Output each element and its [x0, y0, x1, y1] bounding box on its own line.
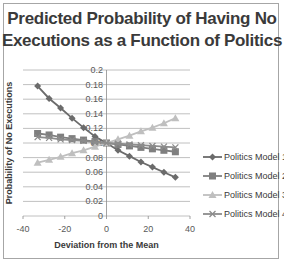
- data-point-diamond-marker: [149, 164, 156, 171]
- x-tick-label: 20: [143, 224, 153, 234]
- legend-label-model-4: Politics Model 4: [224, 209, 284, 219]
- y-tick-label: 0.2: [90, 65, 103, 75]
- y-tick-label: 0.18: [85, 80, 103, 90]
- data-point-square-marker: [160, 147, 167, 154]
- x-tick-label: -40: [16, 224, 29, 234]
- data-point-diamond-marker: [172, 174, 179, 181]
- y-tick-label: 0: [98, 211, 103, 221]
- x-tick-label: 40: [185, 224, 195, 234]
- data-point-square-marker: [34, 130, 41, 137]
- x-tick-label: -20: [58, 224, 71, 234]
- data-point-triangle-marker: [171, 114, 179, 121]
- y-tick-label: 0.16: [85, 94, 103, 104]
- legend-diamond-icon: [209, 154, 216, 161]
- y-tick-label: 0.02: [85, 196, 103, 206]
- legend-label-model-2: Politics Model 2: [224, 171, 284, 181]
- x-tick-label: 0: [104, 224, 109, 234]
- y-tick-label: 0.08: [85, 153, 103, 163]
- y-axis-label: Probability of No Executions: [4, 82, 14, 205]
- data-point-diamond-marker: [137, 158, 144, 165]
- data-point-diamond-marker: [160, 169, 167, 176]
- line-chart: 00.020.040.060.080.10.120.140.160.180.2-…: [0, 0, 284, 264]
- legend-label-model-3: Politics Model 3: [224, 190, 284, 200]
- y-tick-label: 0.06: [85, 167, 103, 177]
- legend-label-model-1: Politics Model 1: [224, 152, 284, 162]
- x-axis-label: Deviation from the Mean: [54, 240, 159, 250]
- y-tick-label: 0.14: [85, 109, 103, 119]
- y-tick-label: 0.04: [85, 182, 103, 192]
- legend-square-icon: [209, 173, 216, 180]
- data-point-diamond-marker: [126, 153, 133, 160]
